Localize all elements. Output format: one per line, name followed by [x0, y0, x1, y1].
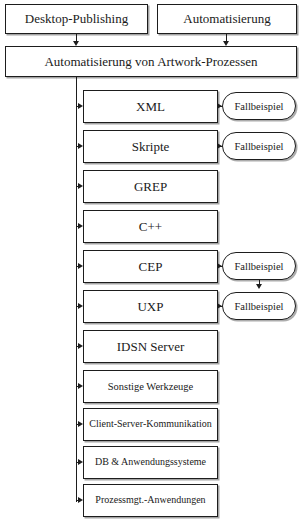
node-skripte[interactable]: Skripte — [83, 130, 218, 163]
node-label: XML — [134, 100, 167, 114]
node-desktop-publishing[interactable]: Desktop-Publishing — [5, 4, 148, 34]
node-label: DB & Anwendungssysteme — [93, 457, 208, 468]
node-client-server-kommunikation[interactable]: Client-Server-Kommunikation — [83, 408, 218, 441]
node-automatisierung-von-artwork-prozessen[interactable]: Automatisierung von Artwork-Prozessen — [5, 46, 297, 77]
node-automatisierung[interactable]: Automatisierung — [157, 4, 297, 34]
node-label: CEP — [137, 260, 165, 274]
node-db-anwendungssysteme[interactable]: DB & Anwendungssysteme — [83, 446, 218, 479]
node-uxp[interactable]: UXP — [83, 290, 218, 323]
artwork-automation-flowchart: Desktop-Publishing Automatisierung Autom… — [0, 0, 302, 522]
node-label: Skripte — [130, 140, 172, 154]
node-label: Desktop-Publishing — [23, 12, 130, 26]
node-label: C++ — [137, 220, 164, 234]
node-sonstige-werkzeuge[interactable]: Sonstige Werkzeuge — [83, 370, 218, 403]
node-prozessmgt-anwendungen[interactable]: Prozessmgt.-Anwendungen — [83, 484, 218, 517]
node-label: Fallbeispiel — [235, 141, 284, 152]
node-grep[interactable]: GREP — [83, 170, 218, 203]
node-label: Sonstige Werkzeuge — [106, 381, 196, 392]
node-fallbeispiel-skripte[interactable]: Fallbeispiel — [222, 132, 296, 160]
node-label: Automatisierung von Artwork-Prozessen — [42, 55, 259, 69]
node-cep[interactable]: CEP — [83, 250, 218, 283]
node-label: Prozessmgt.-Anwendungen — [93, 495, 207, 506]
node-label: Fallbeispiel — [235, 301, 284, 312]
node-idsn-server[interactable]: IDSN Server — [83, 330, 218, 363]
node-cpp[interactable]: C++ — [83, 210, 218, 243]
arrowhead-fallbeispiel-cep-to-uxp — [256, 284, 262, 289]
node-fallbeispiel-xml[interactable]: Fallbeispiel — [222, 92, 296, 120]
node-label: UXP — [135, 300, 165, 314]
node-label: Fallbeispiel — [235, 101, 284, 112]
node-label: Fallbeispiel — [235, 261, 284, 272]
node-label: IDSN Server — [115, 340, 187, 354]
node-xml[interactable]: XML — [83, 90, 218, 123]
node-label: Automatisierung — [181, 12, 272, 26]
node-fallbeispiel-cep[interactable]: Fallbeispiel — [222, 252, 296, 280]
connector-trunk — [76, 77, 77, 502]
node-label: GREP — [132, 180, 169, 194]
node-label: Client-Server-Kommunikation — [87, 419, 214, 430]
node-fallbeispiel-uxp[interactable]: Fallbeispiel — [222, 292, 296, 320]
